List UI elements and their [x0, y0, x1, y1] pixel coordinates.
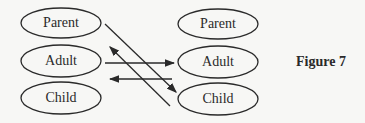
right-adult-label: Adult — [177, 54, 259, 70]
arrow-parent-to-child — [105, 24, 176, 92]
arrow-child-to-adult — [110, 47, 170, 106]
right-child-label: Child — [177, 91, 259, 107]
figure-label: Figure 7 — [296, 54, 346, 70]
right-parent-label: Parent — [177, 16, 259, 32]
left-child-label: Child — [20, 90, 102, 106]
left-adult-label: Adult — [20, 53, 102, 69]
left-parent-label: Parent — [20, 15, 102, 31]
